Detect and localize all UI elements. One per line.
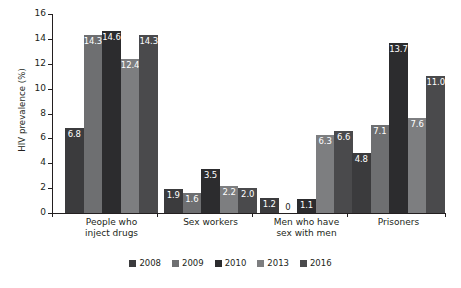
bar-value-label: 1.1 (300, 199, 313, 210)
bar-group: 4.87.113.77.611.0 (352, 14, 445, 213)
legend-label: 2016 (310, 259, 332, 268)
bar-value-label: 6.8 (68, 128, 81, 139)
legend-swatch-icon (215, 260, 222, 267)
legend-label: 2013 (267, 259, 289, 268)
bar-value-label: 2.0 (241, 188, 254, 199)
y-tick-label: 16 (20, 9, 46, 18)
y-axis-line (52, 14, 53, 213)
bar-value-label: 14.3 (84, 35, 103, 46)
bar-value-label: 14.3 (139, 35, 158, 46)
y-tick (48, 64, 52, 65)
y-tick (48, 14, 52, 15)
bar: 14.6 (102, 31, 121, 213)
y-tick (48, 89, 52, 90)
bar-value-label: 4.8 (355, 153, 368, 164)
bar-value-label: 1.6 (185, 193, 198, 204)
bar-value-label: 6.3 (318, 135, 331, 146)
bar: 7.1 (371, 125, 390, 213)
legend-item[interactable]: 2013 (257, 259, 289, 268)
bar-value-label: 7.6 (410, 118, 423, 129)
y-tick (48, 188, 52, 189)
hiv-prevalence-bar-chart: HIV prevalence (%) 0246810121416 6.814.3… (0, 0, 461, 288)
y-tick (48, 39, 52, 40)
bar-value-label: 7.1 (373, 125, 386, 136)
legend-item[interactable]: 2009 (172, 259, 204, 268)
x-category-label: Prisoners (340, 217, 457, 228)
bar: 7.6 (408, 118, 427, 213)
x-category-label-line: sex with men (248, 228, 365, 239)
legend-item[interactable]: 2016 (300, 259, 332, 268)
legend-swatch-icon (300, 260, 307, 267)
y-tick-label: 2 (20, 183, 46, 192)
bar: 2.0 (238, 188, 257, 213)
bar-value-label: 1.9 (167, 189, 180, 200)
x-axis-line (52, 213, 445, 214)
bar: 13.7 (389, 43, 408, 213)
y-tick-label: 6 (20, 133, 46, 142)
y-tick (48, 163, 52, 164)
legend-item[interactable]: 2010 (215, 259, 247, 268)
legend-swatch-icon (129, 260, 136, 267)
y-tick (48, 138, 52, 139)
bar: 1.2 (260, 198, 279, 213)
legend-item[interactable]: 2008 (129, 259, 161, 268)
bar-value-label: 13.7 (389, 43, 408, 54)
y-tick-label: 0 (20, 208, 46, 217)
bar-value-label: 14.6 (102, 31, 121, 42)
legend: 20082009201020132016 (0, 259, 461, 268)
bar-value-label: 2.2 (222, 186, 235, 197)
legend-swatch-icon (172, 260, 179, 267)
y-tick (48, 114, 52, 115)
bar-value-label: 6.6 (337, 131, 350, 142)
bar-value-label: 1.2 (263, 198, 276, 209)
bar: 14.3 (84, 35, 103, 213)
bar: 11.0 (426, 76, 445, 213)
y-tick-label: 4 (20, 158, 46, 167)
bar: 12.4 (121, 59, 140, 213)
bar-group: 1.91.63.52.22.0 (164, 14, 257, 213)
bar-value-label: 0 (285, 203, 290, 212)
y-tick-label: 12 (20, 59, 46, 68)
legend-swatch-icon (257, 260, 264, 267)
bar-value-label: 12.4 (121, 59, 140, 70)
bar: 3.5 (201, 169, 220, 213)
bar: 6.6 (334, 131, 353, 213)
plot-area: 0246810121416 6.814.314.612.414.31.91.63… (52, 14, 445, 213)
x-category-label-line: Prisoners (340, 217, 457, 228)
y-tick-label: 10 (20, 84, 46, 93)
bar: 1.9 (164, 189, 183, 213)
x-category-label-line: inject drugs (53, 228, 170, 239)
bar-group: 1.201.16.36.6 (260, 14, 353, 213)
y-tick-label: 14 (20, 34, 46, 43)
legend-label: 2008 (139, 259, 161, 268)
legend-label: 2009 (182, 259, 204, 268)
y-tick-label: 8 (20, 109, 46, 118)
bar-value-label: 3.5 (204, 169, 217, 180)
legend-label: 2010 (225, 259, 247, 268)
bar: 6.8 (65, 128, 84, 213)
bar-group: 6.814.314.612.414.3 (65, 14, 158, 213)
bar: 2.2 (220, 186, 239, 213)
bar: 4.8 (352, 153, 371, 213)
bar: 6.3 (316, 135, 335, 213)
bar-value-label: 11.0 (426, 76, 445, 87)
bar: 1.1 (297, 199, 316, 213)
bar: 14.3 (139, 35, 158, 213)
bar: 1.6 (183, 193, 202, 213)
